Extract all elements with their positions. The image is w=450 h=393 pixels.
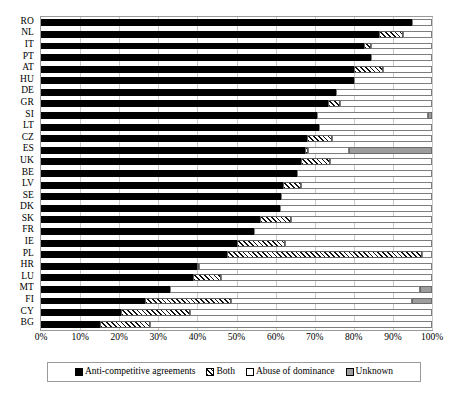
bar-row[interactable] [41,216,432,223]
bar-segment-anti [41,77,354,84]
bar-segment-anti [41,158,301,165]
stacked-bar [41,321,432,328]
stacked-bar [41,112,432,119]
bar-row[interactable] [41,286,432,293]
bar-segment-abuse [190,309,432,316]
bar-segment-abuse [317,112,428,119]
x-axis-tick-label: 20% [110,333,127,343]
y-axis-tick-label: UK [20,156,34,166]
bar-segment-anti [41,193,281,200]
y-axis-tick-label: CZ [22,133,34,143]
bar-segment-abuse [371,54,432,61]
bar-segment-unknown [349,147,432,154]
bar-segment-anti [41,263,197,270]
stacked-bar [41,135,432,142]
bar-row[interactable] [41,158,432,165]
y-axis-tick-label: HR [21,260,34,270]
bar-row[interactable] [41,193,432,200]
bar-row[interactable] [41,205,432,212]
bar-row[interactable] [41,31,432,38]
bar-segment-unknown [428,112,432,119]
bar-row[interactable] [41,274,432,281]
legend-item[interactable]: Both [206,367,234,377]
bar-segment-anti [41,251,227,258]
bar-segment-anti [41,89,336,96]
bar-row[interactable] [41,147,432,154]
bar-segment-anti [41,240,237,247]
y-axis-tick-label: AT [22,63,34,73]
legend-item[interactable]: Anti-competitive agreements [75,367,196,377]
y-axis-tick-label: FR [22,225,34,235]
bar-segment-anti [41,309,121,316]
stacked-bar [41,19,432,26]
bar-row[interactable] [41,66,432,73]
x-axis-tick-label: 80% [345,333,362,343]
bar-row[interactable] [41,77,432,84]
bar-segment-anti [41,228,254,235]
y-axis-tick-label: CY [21,307,34,317]
bar-segment-abuse [383,66,432,73]
x-axis-tick-label: 0% [35,333,48,343]
stacked-bar [41,54,432,61]
stacked-bar [41,66,432,73]
bar-segment-anti [41,205,280,212]
y-axis-tick-label: IE [25,237,34,247]
bar-row[interactable] [41,321,432,328]
stacked-bar [41,240,432,247]
y-axis-tick-label: GR [21,98,34,108]
bar-segment-abuse [301,182,432,189]
bar-segment-both [354,66,383,73]
bar-segment-anti [41,43,364,50]
x-axis-tick-label: 60% [267,333,284,343]
stacked-bar [41,228,432,235]
bar-row[interactable] [41,251,432,258]
bar-row[interactable] [41,240,432,247]
bar-row[interactable] [41,135,432,142]
bar-segment-abuse [319,124,432,131]
bar-segment-anti [41,100,328,107]
bar-row[interactable] [41,170,432,177]
bar-segment-both [227,251,423,258]
legend-item[interactable]: Unknown [346,367,393,377]
bar-row[interactable] [41,89,432,96]
bar-segment-anti [41,31,379,38]
bar-row[interactable] [41,112,432,119]
gridline [432,17,433,330]
y-axis-tick-label: LT [23,121,34,131]
chart-legend: Anti-competitive agreementsBothAbuse of … [47,362,421,382]
legend-swatch-abuse-icon [246,368,254,376]
stacked-bar [41,31,432,38]
bar-segment-both [307,135,332,142]
y-axis-tick-label: RO [21,17,34,27]
x-axis-tick-label: 90% [384,333,401,343]
bar-segment-abuse [231,298,413,305]
bar-row[interactable] [41,43,432,50]
bar-segment-abuse [403,31,432,38]
y-axis-tick-label: BE [22,168,34,178]
y-axis-tick-label: SI [25,110,34,120]
bar-segment-abuse [332,135,432,142]
stacked-bar [41,298,432,305]
bar-segment-anti [41,216,260,223]
x-axis-labels: 0%10%20%30%40%50%60%70%80%90%100% [40,333,433,347]
bar-row[interactable] [41,19,432,26]
legend-label: Unknown [356,367,393,377]
bar-row[interactable] [41,228,432,235]
bar-row[interactable] [41,182,432,189]
bar-row[interactable] [41,263,432,270]
stacked-bar [41,309,432,316]
bar-segment-anti [41,170,297,177]
legend-item[interactable]: Abuse of dominance [246,367,335,377]
bar-row[interactable] [41,100,432,107]
bar-row[interactable] [41,309,432,316]
y-axis-labels: RONLITPTATHUDEGRSILTCZESUKBELVSEDKSKFRIE… [0,16,37,331]
x-axis-tick-label: 30% [150,333,167,343]
bar-row[interactable] [41,124,432,131]
y-axis-tick-label: DK [20,202,34,212]
y-axis-tick-label: SE [23,191,34,201]
stacked-bar [41,205,432,212]
bar-row[interactable] [41,298,432,305]
bar-segment-abuse [281,193,432,200]
y-axis-tick-label: LV [22,179,34,189]
bar-row[interactable] [41,54,432,61]
